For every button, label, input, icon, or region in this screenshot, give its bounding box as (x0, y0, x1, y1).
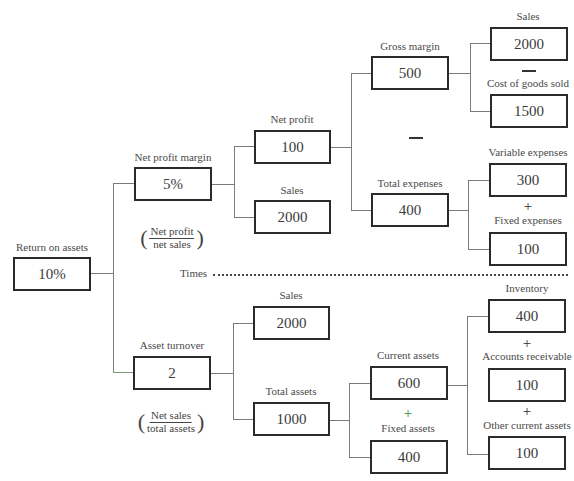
total-expenses-label: Total expenses (378, 177, 443, 189)
connector (467, 316, 488, 317)
cogs-box: 1500 (490, 94, 568, 128)
connector (234, 146, 235, 217)
other-current-assets-box: 100 (488, 436, 566, 470)
net-profit-label: Net profit (270, 113, 313, 125)
close-paren: ) (197, 227, 204, 249)
connector (349, 383, 350, 458)
gross-margin-box: 500 (371, 56, 449, 90)
connector (470, 111, 490, 112)
current-assets-label: Current assets (377, 349, 439, 361)
connector (113, 183, 134, 184)
connector (330, 147, 351, 148)
connector (470, 43, 490, 44)
close-paren: ) (197, 411, 204, 433)
connector (234, 217, 254, 218)
npm-label: Net profit margin (135, 151, 212, 163)
fixed-assets-label: Fixed assets (381, 422, 434, 434)
denominator: total assets (147, 423, 195, 435)
fixed-expenses-label: Fixed expenses (494, 214, 562, 226)
connector (113, 183, 114, 373)
asset-turnover-formula: ( Net sales total assets ) (138, 410, 205, 434)
connector (233, 323, 234, 420)
connector (211, 184, 234, 185)
other-current-assets-label: Other current assets (483, 419, 570, 431)
net-profit-box: 100 (254, 130, 331, 164)
asset-turnover-label: Asset turnover (140, 339, 204, 351)
connector (468, 180, 469, 249)
connector (468, 180, 489, 181)
connector (90, 273, 113, 274)
connector (447, 385, 467, 386)
connector (349, 383, 370, 384)
fraction: Net profit net sales (149, 226, 194, 250)
connector (234, 146, 254, 147)
connector (329, 420, 349, 421)
minus-sign (522, 70, 536, 72)
connector (349, 457, 370, 458)
connector (470, 43, 471, 111)
connector (351, 73, 371, 74)
fixed-expenses-box: 100 (489, 232, 567, 266)
open-paren: ( (140, 227, 147, 249)
denominator: net sales (153, 239, 191, 251)
inventory-box: 400 (488, 299, 566, 333)
sales-upper-label: Sales (280, 184, 303, 196)
fixed-assets-box: 400 (370, 440, 448, 474)
variable-expenses-label: Variable expenses (488, 146, 567, 158)
connector (448, 73, 470, 74)
connector (467, 454, 488, 455)
roa-label: Return on assets (16, 241, 88, 253)
fraction: Net sales total assets (147, 410, 195, 434)
connector (113, 372, 133, 373)
minus-sign (409, 137, 423, 139)
roa-box: 10% (13, 257, 91, 291)
connector (233, 419, 253, 420)
cogs-label: Cost of goods sold (487, 77, 569, 89)
gross-margin-label: Gross margin (380, 40, 439, 52)
asset-turnover-box: 2 (133, 356, 211, 390)
numerator: Net profit (149, 226, 194, 239)
total-expenses-box: 400 (371, 193, 449, 227)
sales-lower-label: Sales (279, 289, 302, 301)
open-paren: ( (138, 411, 145, 433)
total-assets-label: Total assets (266, 385, 317, 397)
connector (351, 210, 371, 211)
sales-lower-box: 2000 (253, 306, 330, 340)
connector (351, 73, 352, 211)
connector (210, 373, 233, 374)
sales-top-label: Sales (516, 10, 539, 22)
times-dotted-line (213, 274, 568, 276)
total-assets-box: 1000 (253, 402, 330, 436)
numerator: Net sales (150, 410, 192, 423)
plus-sign: + (404, 406, 412, 421)
accounts-receivable-box: 100 (488, 368, 566, 402)
npm-box: 5% (134, 167, 212, 201)
sales-upper-box: 2000 (254, 200, 331, 234)
accounts-receivable-label: Accounts receivable (482, 350, 571, 362)
times-label: Times (180, 267, 207, 279)
plus-sign: + (523, 336, 531, 351)
plus-sign: + (524, 199, 532, 214)
connector (233, 323, 253, 324)
connector (467, 316, 468, 455)
variable-expenses-box: 300 (489, 163, 567, 197)
npm-formula: ( Net profit net sales ) (140, 226, 204, 250)
connector (468, 249, 489, 250)
plus-sign: + (523, 404, 531, 419)
sales-top-box: 2000 (490, 27, 568, 61)
current-assets-box: 600 (370, 366, 448, 400)
connector (448, 210, 468, 211)
inventory-label: Inventory (506, 282, 549, 294)
